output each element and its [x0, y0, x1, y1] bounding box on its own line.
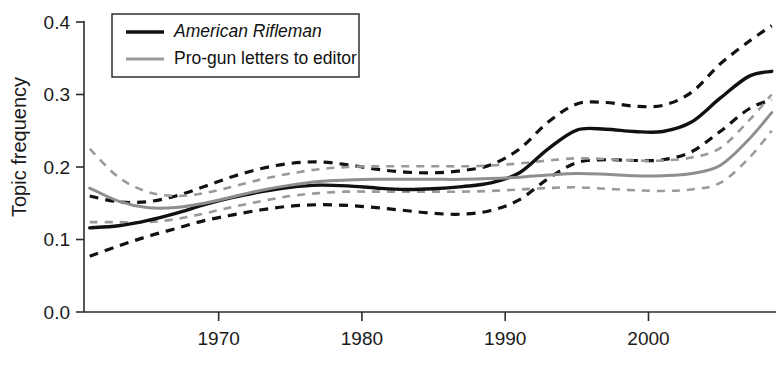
y-tick-label: 0.3 [44, 84, 70, 105]
x-tick-label: 1980 [341, 328, 383, 349]
y-tick-label: 0.0 [44, 302, 70, 323]
chart-legend: American RiflemanPro-gun letters to edit… [112, 14, 359, 77]
x-axis-ticks: 1970198019902000 [198, 312, 670, 349]
y-axis-title: Topic frequency [8, 77, 30, 217]
figure-container: 0.00.10.20.30.4 1970198019902000 Topic f… [0, 0, 782, 375]
legend-label-2: Pro-gun letters to editor [174, 48, 357, 68]
y-tick-label: 0.1 [44, 229, 70, 250]
x-tick-label: 1990 [484, 328, 526, 349]
y-axis-ticks: 0.00.10.20.30.4 [44, 12, 84, 323]
series-pro-gun-letters-to-editor [90, 113, 772, 209]
x-tick-label: 2000 [627, 328, 669, 349]
topic-frequency-chart: 0.00.10.20.30.4 1970198019902000 Topic f… [0, 0, 782, 375]
x-tick-label: 1970 [198, 328, 240, 349]
y-tick-label: 0.4 [44, 12, 71, 33]
legend-label-1: American Rifleman [173, 21, 322, 41]
y-tick-label: 0.2 [44, 157, 70, 178]
